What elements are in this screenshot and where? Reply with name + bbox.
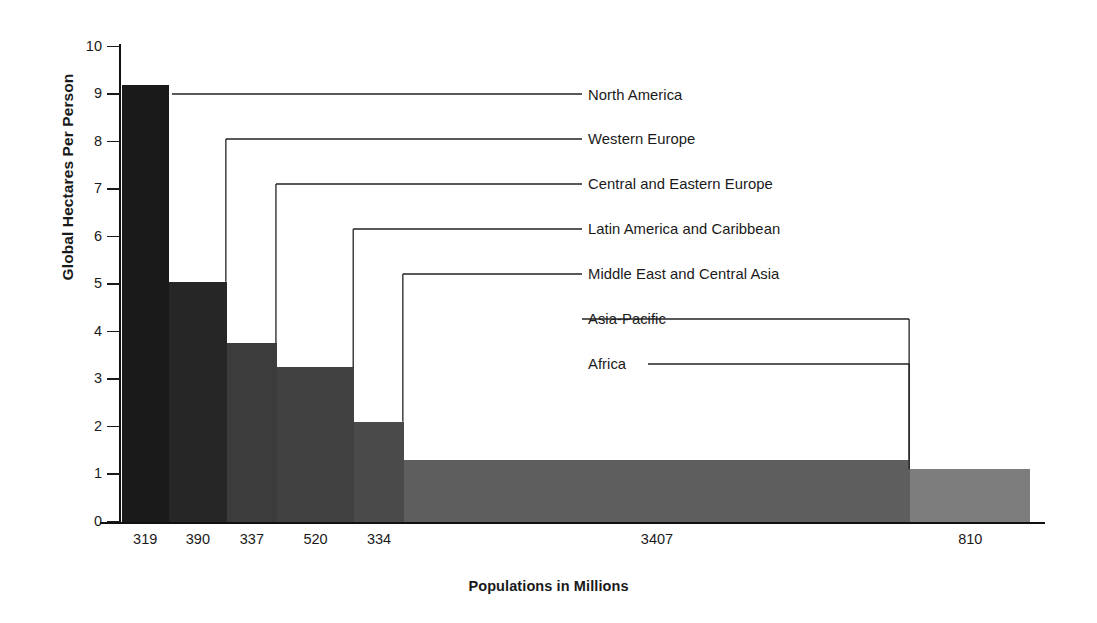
bar-western-europe (169, 282, 227, 522)
chart-figure: Global Hectares Per Person 012345678910 … (0, 0, 1097, 623)
y-tick-label-3: 3 (70, 370, 102, 386)
x-tick-label-western-europe: 390 (186, 531, 210, 547)
legend-label-north-america: North America (588, 87, 682, 103)
y-tick-mark-3 (107, 378, 120, 380)
y-tick-label-1: 1 (70, 465, 102, 481)
bar-africa (910, 469, 1030, 521)
y-tick-label-7: 7 (70, 180, 102, 196)
y-tick-mark-9 (107, 93, 120, 95)
y-tick-mark-0 (107, 521, 120, 523)
y-tick-mark-10 (107, 46, 120, 48)
plot-area (0, 0, 1097, 522)
x-tick-label-middle-east-and-central-asia: 334 (367, 531, 391, 547)
y-tick-mark-1 (107, 473, 120, 475)
legend-label-western-europe: Western Europe (588, 131, 695, 147)
x-tick-label-africa: 810 (958, 531, 982, 547)
y-tick-label-2: 2 (70, 418, 102, 434)
y-tick-label-4: 4 (70, 323, 102, 339)
y-tick-mark-8 (107, 141, 120, 143)
legend-label-asia-pacific: Asia-Pacific (588, 311, 666, 327)
y-tick-label-5: 5 (70, 275, 102, 291)
y-tick-label-10: 10 (70, 38, 102, 54)
y-tick-label-6: 6 (70, 228, 102, 244)
bar-middle-east-and-central-asia (354, 422, 404, 522)
y-tick-mark-4 (107, 331, 120, 333)
y-tick-mark-7 (107, 188, 120, 190)
x-tick-label-latin-america-and-caribbean: 520 (303, 531, 327, 547)
y-tick-label-8: 8 (70, 133, 102, 149)
y-tick-label-9: 9 (70, 85, 102, 101)
y-tick-mark-6 (107, 236, 120, 238)
x-axis-title: Populations in Millions (0, 578, 1097, 594)
x-tick-label-central-and-eastern-europe: 337 (240, 531, 264, 547)
bar-central-and-eastern-europe (227, 343, 277, 521)
bar-north-america (122, 85, 169, 522)
legend-label-central-and-eastern-europe: Central and Eastern Europe (588, 176, 773, 192)
y-tick-mark-2 (107, 426, 120, 428)
legend-label-latin-america-and-caribbean: Latin America and Caribbean (588, 221, 780, 237)
x-axis-line (100, 522, 1045, 525)
y-tick-label-0: 0 (70, 513, 102, 529)
bar-asia-pacific (404, 460, 910, 522)
legend-label-middle-east-and-central-asia: Middle East and Central Asia (588, 266, 779, 282)
y-tick-mark-5 (107, 283, 120, 285)
bar-latin-america-and-caribbean (277, 367, 354, 521)
x-tick-label-north-america: 319 (133, 531, 157, 547)
x-tick-label-asia-pacific: 3407 (641, 531, 673, 547)
legend-label-africa: Africa (588, 356, 626, 372)
